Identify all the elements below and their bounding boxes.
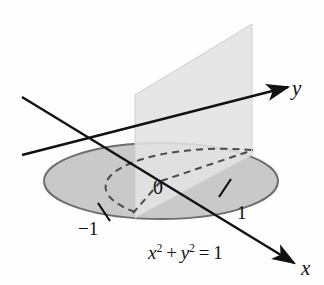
origin-label: 0 [153,177,163,197]
figure-container: y x 0 −1 1 x2 + y2 = 1 [0,0,324,285]
tick-label-negative-one: −1 [78,219,98,238]
equation-y: y [181,242,189,263]
equation-equals: = [199,242,210,263]
equation-value: 1 [213,242,223,263]
equation-plus: + [166,242,177,263]
tick-label-positive-one: 1 [237,203,247,222]
x-axis-label: x [301,258,310,279]
y-axis-label: y [292,78,301,99]
equation-label: x2 + y2 = 1 [148,243,223,262]
